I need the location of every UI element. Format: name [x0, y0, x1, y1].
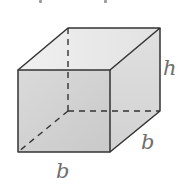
width-label: b — [56, 161, 69, 182]
height-label: h — [163, 58, 177, 79]
cube-drawing — [0, 0, 180, 195]
cube-diagram: h b b — [0, 0, 180, 195]
depth-label: b — [141, 132, 154, 153]
cropped-text-fragment — [104, 0, 107, 3]
cropped-text-fragment — [39, 0, 42, 3]
front-face — [18, 70, 110, 152]
